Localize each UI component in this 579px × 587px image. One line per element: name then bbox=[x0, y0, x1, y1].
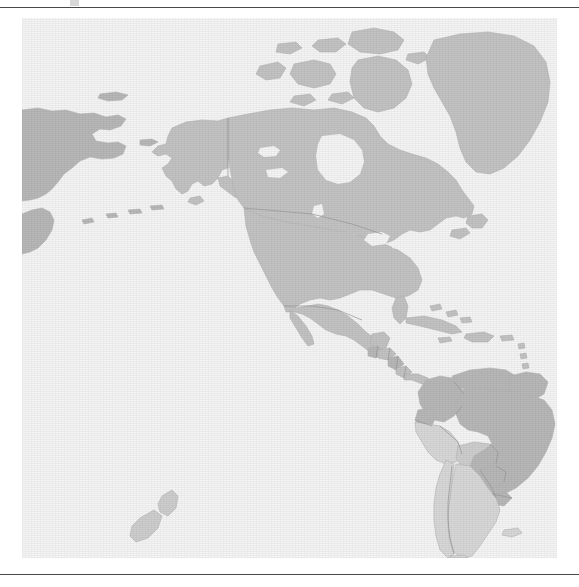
figure-page bbox=[0, 0, 579, 587]
region-puerto-rico[interactable] bbox=[500, 335, 514, 341]
top-tick-mark bbox=[70, 0, 79, 6]
world-map-graphic[interactable] bbox=[22, 18, 557, 558]
bottom-divider-rule bbox=[0, 574, 579, 575]
map-panel[interactable] bbox=[22, 18, 557, 558]
top-divider-rule bbox=[0, 7, 579, 8]
